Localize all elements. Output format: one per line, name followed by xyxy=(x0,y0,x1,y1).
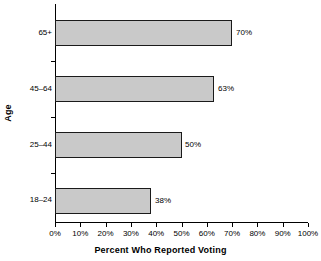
x-tick-10 xyxy=(80,223,81,227)
x-tick-20 xyxy=(106,223,107,227)
x-tick-60 xyxy=(207,223,208,227)
x-tick-label-90: 90% xyxy=(275,230,291,238)
y-minor-tick-2 xyxy=(51,117,55,118)
x-tick-label-60: 60% xyxy=(199,230,215,238)
x-tick-label-30: 30% xyxy=(123,230,139,238)
x-tick-40 xyxy=(156,223,157,227)
x-tick-label-50: 50% xyxy=(173,230,189,238)
x-tick-50 xyxy=(182,223,183,227)
y-minor-tick-3 xyxy=(51,173,55,174)
plot-area: 70% 63% 50% 38% xyxy=(55,4,308,222)
x-tick-100 xyxy=(308,223,309,227)
x-tick-label-0: 0% xyxy=(49,230,61,238)
bar-value-18-24: 38% xyxy=(155,197,171,205)
x-tick-30 xyxy=(131,223,132,227)
y-tick-label-18-24: 18–24 xyxy=(6,196,52,204)
x-tick-label-80: 80% xyxy=(249,230,265,238)
bar-45-64 xyxy=(55,76,214,102)
x-tick-80 xyxy=(257,223,258,227)
x-axis-title: Percent Who Reported Voting xyxy=(0,245,321,255)
x-tick-label-40: 40% xyxy=(148,230,164,238)
y-axis-tick-labels: 65+ 45–64 25–44 18–24 xyxy=(4,0,52,225)
bar-value-25-44: 50% xyxy=(185,141,201,149)
x-tick-90 xyxy=(283,223,284,227)
bar-value-45-64: 63% xyxy=(218,85,234,93)
x-tick-label-70: 70% xyxy=(224,230,240,238)
x-tick-70 xyxy=(232,223,233,227)
x-axis-tick-labels: 0% 10% 20% 30% 40% 50% 60% 70% 80% 90% 1… xyxy=(55,4,308,34)
x-tick-label-100: 100% xyxy=(298,230,318,238)
bar-chart: Age 65+ 45–64 25–44 18–24 70% 6 xyxy=(0,0,321,261)
y-tick-label-45-64: 45–64 xyxy=(6,85,52,93)
bar-25-44 xyxy=(55,132,182,158)
x-tick-label-10: 10% xyxy=(72,230,88,238)
x-tick-label-20: 20% xyxy=(98,230,114,238)
y-tick-label-25-44: 25–44 xyxy=(6,141,52,149)
y-minor-tick-1 xyxy=(51,61,55,62)
y-tick-label-65plus: 65+ xyxy=(6,29,52,37)
bar-18-24 xyxy=(55,188,151,214)
x-tick-0 xyxy=(55,223,56,227)
